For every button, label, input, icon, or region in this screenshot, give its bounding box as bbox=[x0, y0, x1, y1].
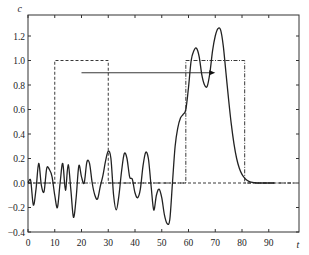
line-chart: −0.4−0.20.00.20.40.60.81.01.2 0102030405… bbox=[0, 0, 309, 255]
x-tick-label: 40 bbox=[130, 238, 140, 248]
y-tick-label: 0.6 bbox=[13, 105, 25, 115]
x-tick-label: 80 bbox=[237, 238, 247, 248]
series-group bbox=[28, 28, 296, 225]
x-tick-label: 90 bbox=[264, 238, 274, 248]
y-tick-label: 1.2 bbox=[13, 32, 25, 42]
y-tick-label: 0.4 bbox=[13, 130, 25, 140]
x-tick-label: 70 bbox=[211, 238, 221, 248]
annotations bbox=[82, 70, 216, 75]
y-tick-label: 0.0 bbox=[13, 179, 25, 189]
x-axis: 0102030405060708090 bbox=[26, 15, 274, 248]
arrow-head-icon bbox=[209, 70, 215, 75]
plot-frame bbox=[28, 15, 299, 232]
y-tick-label: −0.2 bbox=[8, 203, 25, 213]
y-axis-label: c bbox=[18, 3, 23, 14]
x-tick-label: 30 bbox=[104, 238, 114, 248]
y-tick-label: 0.2 bbox=[13, 154, 25, 164]
x-tick-label: 20 bbox=[77, 238, 87, 248]
series-solid bbox=[28, 28, 274, 225]
y-tick-label: −0.4 bbox=[8, 228, 25, 238]
y-tick-label: 1.0 bbox=[13, 56, 25, 66]
x-tick-label: 60 bbox=[184, 238, 194, 248]
x-axis-label: t bbox=[297, 239, 300, 250]
y-tick-label: 0.8 bbox=[13, 81, 25, 91]
x-tick-label: 10 bbox=[50, 238, 60, 248]
x-tick-label: 50 bbox=[157, 238, 167, 248]
x-tick-label: 0 bbox=[26, 238, 31, 248]
